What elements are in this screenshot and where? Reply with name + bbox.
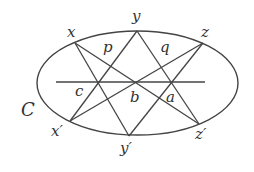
label-intersection-q: q — [160, 40, 170, 55]
conic-curve-c — [37, 31, 238, 135]
label-intersection-c: c — [75, 84, 83, 99]
label-point-x-prime: x′ — [51, 124, 63, 139]
line-x-zprime — [75, 43, 199, 124]
label-curve-c: C — [21, 101, 35, 119]
label-point-y: y — [132, 9, 140, 24]
label-point-z: z — [201, 25, 209, 40]
label-point-y-prime: y′ — [120, 141, 132, 156]
label-intersection-a: a — [166, 90, 175, 105]
label-point-x: x — [67, 25, 75, 40]
label-intersection-p: p — [103, 40, 113, 55]
label-intersection-b: b — [130, 90, 140, 105]
pascal-diagram: C x y z x′ y′ z′ p q c b a — [0, 0, 254, 172]
label-point-z-prime: z′ — [195, 127, 206, 142]
